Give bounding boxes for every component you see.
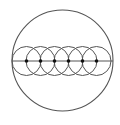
center-dot-4 [67,59,71,63]
center-dot-5 [81,59,85,63]
center-dot-6 [95,59,99,63]
center-dot-2 [39,59,43,63]
circle-packing-diagram [0,0,120,125]
center-dot-3 [53,59,57,63]
center-dot-1 [25,59,29,63]
